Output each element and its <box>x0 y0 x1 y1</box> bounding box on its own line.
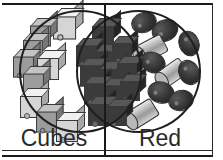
venn-label-cubes: Cubes <box>4 127 104 150</box>
frame-top-rule <box>2 3 213 5</box>
venn-diagram-figure: Cubes Red <box>0 0 223 160</box>
venn-circle-red <box>76 10 201 133</box>
center-divider-rule <box>104 4 106 155</box>
frame-bottom-rule <box>2 155 213 157</box>
venn-label-red: Red <box>110 127 210 150</box>
frame-right-rule <box>212 3 213 156</box>
